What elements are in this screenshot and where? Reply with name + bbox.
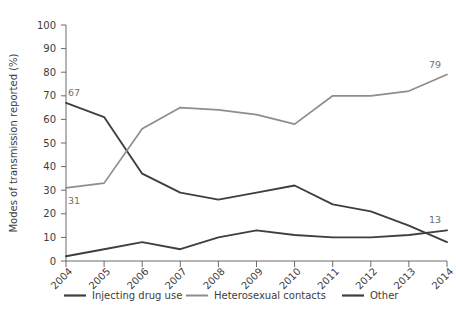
y-tick-label: 20 — [43, 208, 56, 219]
y-tick-label: 0 — [50, 256, 56, 267]
y-axis-ticks: 0102030405060708090100 — [37, 20, 66, 267]
chart-legend: Injecting drug useHeterosexual contactsO… — [64, 290, 399, 301]
y-tick-label: 40 — [43, 161, 56, 172]
x-tick-label: 2013 — [392, 266, 418, 292]
x-tick-label: 2010 — [277, 266, 303, 292]
x-tick-label: 2012 — [353, 266, 379, 292]
x-axis-ticks: 2004200520062007200820092010201120122013… — [49, 261, 456, 291]
legend-label-3: Other — [370, 290, 399, 301]
legend-label-2: Heterosexual contacts — [214, 290, 326, 301]
legend-label-1: Injecting drug use — [92, 290, 182, 301]
y-tick-label: 50 — [43, 138, 56, 149]
series-line-injecting-drug-use — [66, 103, 447, 242]
y-axis-title: Modes of transmission reported (%) — [8, 53, 19, 232]
series-lines — [66, 75, 447, 257]
y-tick-label: 30 — [43, 185, 56, 196]
value-annotations: 67317913 — [68, 59, 441, 226]
y-tick-label: 10 — [43, 232, 56, 243]
value-label-79: 79 — [429, 59, 441, 70]
y-tick-label: 100 — [37, 20, 56, 31]
x-tick-label: 2011 — [315, 266, 341, 292]
y-tick-label: 60 — [43, 114, 56, 125]
x-tick-label: 2005 — [87, 266, 113, 292]
value-label-31: 31 — [68, 195, 80, 206]
series-line-other — [66, 230, 447, 256]
x-tick-label: 2006 — [125, 266, 151, 292]
y-tick-label: 80 — [43, 67, 56, 78]
y-tick-label: 90 — [43, 43, 56, 54]
y-tick-label: 70 — [43, 90, 56, 101]
y-axis-title-text: Modes of transmission reported (%) — [8, 53, 19, 232]
x-tick-label: 2004 — [49, 266, 75, 292]
value-label-13: 13 — [429, 214, 441, 225]
x-tick-label: 2014 — [430, 266, 456, 292]
x-tick-label: 2007 — [163, 266, 189, 292]
x-tick-label: 2008 — [201, 266, 227, 292]
value-label-67: 67 — [68, 87, 80, 98]
series-line-heterosexual-contacts — [66, 75, 447, 188]
x-tick-label: 2009 — [239, 266, 265, 292]
line-chart: Modes of transmission reported (%) 01020… — [0, 0, 456, 314]
